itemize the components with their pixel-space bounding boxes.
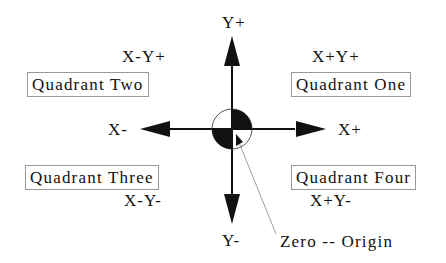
quadrant-four-box: Quadrant Four [291,165,416,190]
quadrant-one-box: Quadrant One [291,72,411,97]
quadrant-two-box: Quadrant Two [27,72,149,97]
y-negative-label: Y- [222,232,240,249]
quadrant-diagram [0,0,446,263]
y-positive-arrow-icon [224,36,240,66]
quadrant-one-signs: X+Y+ [312,48,360,65]
origin-leader-line [238,140,276,234]
y-positive-label: Y+ [222,14,246,31]
quadrant-three-box: Quadrant Three [25,165,159,190]
x-negative-arrow-icon [140,121,170,137]
x-negative-label: X- [108,121,128,138]
quadrant-four-signs: X+Y- [310,192,352,209]
x-positive-label: X+ [338,121,362,138]
origin-symbol-icon [212,109,252,149]
quadrant-three-signs: X-Y- [124,192,162,209]
y-negative-arrow-icon [224,194,240,224]
origin-label: Zero -- Origin [280,233,393,250]
x-positive-arrow-icon [296,121,326,137]
quadrant-two-signs: X-Y+ [122,48,166,65]
